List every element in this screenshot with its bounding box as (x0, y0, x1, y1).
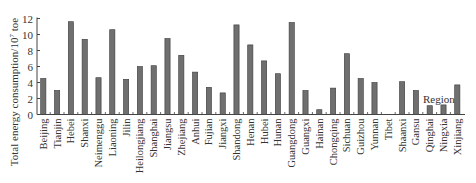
x-tick-label: Hainan (314, 118, 325, 149)
bar-beijing (41, 79, 46, 115)
x-tick-label: Chongqing (328, 118, 339, 165)
x-tick-label: Anhui (190, 118, 201, 144)
x-tick-label: Heilongjiang (134, 118, 145, 174)
bar-shaanxi (400, 82, 405, 115)
x-tick-label: Shanghai (148, 118, 159, 157)
bar-jiangxi (220, 93, 225, 115)
bar-hainan (317, 110, 322, 115)
x-tick-label: Jiangsu (162, 118, 173, 150)
x-tick-label: Hebei (65, 118, 76, 143)
bar-anhui (193, 72, 198, 114)
bar-shandong (234, 25, 239, 115)
x-tick-label: Shandong (231, 118, 242, 161)
x-tick-label: Hubei (259, 118, 270, 144)
x-tick-label: Beijing (38, 118, 49, 150)
x-tick-label: Guangxi (300, 118, 311, 154)
bar-henan (248, 45, 253, 115)
bar-jilin (124, 79, 129, 114)
bar-neimenggu (96, 78, 101, 115)
x-tick-label: Shanxi (79, 118, 90, 147)
x-tick-label: Jilin (121, 118, 132, 137)
bar-fujian (206, 87, 211, 114)
x-tick-label: Sichuan (341, 118, 352, 153)
bar-shanghai (151, 66, 156, 115)
x-tick-label: Liaoning (107, 118, 118, 157)
y-tick-labels: 024681012 (22, 13, 34, 121)
y-tick-label: 0 (28, 109, 34, 121)
y-tick-label: 10 (22, 29, 34, 41)
x-tick-label: Gansu (410, 118, 421, 146)
y-tick-label: 4 (28, 77, 34, 89)
bar-guizhou (358, 79, 363, 115)
x-tick-label: Xinjiang (452, 118, 463, 155)
y-tick-label: 2 (28, 93, 34, 105)
bar-hunan (275, 74, 280, 115)
x-tick-label: Tibet (383, 118, 394, 140)
bar-heilongjiang (137, 67, 142, 115)
x-tick-label: Neimenggu (93, 118, 104, 168)
x-tick-label: Ningxia (438, 118, 449, 152)
x-tick-label: Zhejiang (176, 118, 187, 156)
x-tick-labels: BeijingTianjinHebeiShanxiNeimengguLiaoni… (38, 118, 463, 174)
y-tick-label: 12 (22, 13, 33, 25)
bar-zhejiang (179, 55, 184, 114)
bar-chart: BeijingTianjinHebeiShanxiNeimengguLiaoni… (0, 0, 476, 183)
bar-yunnan (372, 83, 377, 115)
bar-gansu (413, 91, 418, 115)
bar-ningxia (441, 105, 446, 115)
bar-hebei (68, 22, 73, 115)
bar-sichuan (344, 54, 349, 115)
bar-xinjiang (455, 85, 460, 115)
bar-shanxi (82, 39, 87, 114)
bar-qinghai (427, 106, 432, 115)
bar-jiangsu (165, 39, 170, 115)
y-tick-label: 6 (28, 61, 34, 73)
x-tick-label: Hunan (272, 118, 283, 147)
bar-tianjin (55, 91, 60, 115)
x-tick-label: Guizhou (355, 118, 366, 155)
x-tick-label: Henan (245, 118, 256, 146)
x-tick-label: Qinghai (424, 118, 435, 152)
bar-liaoning (110, 30, 115, 115)
bar-chongqing (331, 88, 336, 114)
bar-hubei (262, 61, 267, 115)
x-axis-label: Region (423, 93, 455, 105)
bars (41, 22, 460, 115)
x-tick-label: Jiangxi (217, 118, 228, 148)
x-tick-label: Guangdong (286, 118, 297, 168)
x-tick-label: Fujian (203, 118, 214, 146)
y-tick-label: 8 (28, 45, 34, 57)
x-tick-label: Shaanxi (397, 118, 408, 152)
bar-guangdong (289, 23, 294, 115)
bar-guangxi (303, 91, 308, 115)
x-tick-label: Tianjin (52, 118, 63, 149)
x-tick-label: Yunnan (369, 118, 380, 151)
